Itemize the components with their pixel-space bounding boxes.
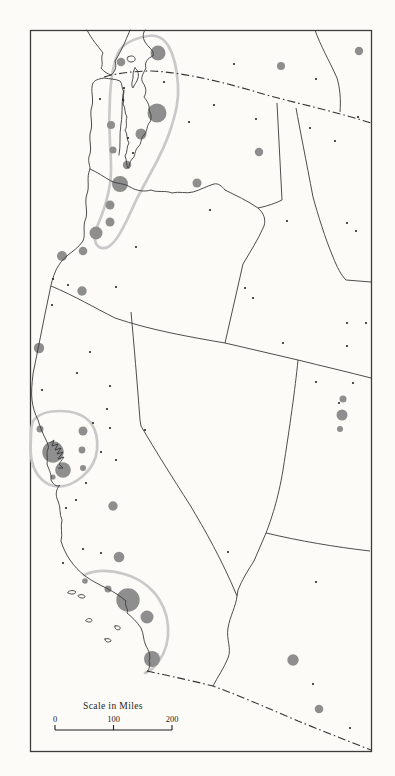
- town-dot: [115, 286, 117, 288]
- channel-islands: [68, 591, 120, 643]
- city-circle: [106, 218, 115, 227]
- town-dot: [41, 389, 43, 391]
- city-circle: [141, 611, 154, 624]
- snake-river-oregon-idaho-border: [225, 190, 265, 343]
- city-circle: [79, 447, 86, 454]
- city-circle: [193, 179, 202, 188]
- city-circle: [355, 47, 363, 55]
- san-juan-island: [127, 56, 135, 62]
- town-dot: [89, 351, 91, 353]
- town-dots-layer: [41, 63, 367, 729]
- city-circle: [277, 62, 285, 70]
- town-dot: [338, 402, 340, 404]
- town-dot: [346, 222, 348, 224]
- scale-tick-0: 0: [53, 714, 57, 724]
- corridor-outlines: [30, 35, 178, 673]
- city-circle: [80, 465, 86, 471]
- town-dot: [349, 727, 351, 729]
- town-dot: [115, 459, 117, 461]
- map-page: Scale in Miles 0 100 200: [0, 0, 395, 776]
- town-dot: [188, 121, 190, 123]
- town-dot: [99, 98, 101, 100]
- town-dot: [92, 422, 94, 424]
- town-dot: [76, 372, 78, 374]
- town-dot: [51, 304, 53, 306]
- town-dot: [357, 116, 359, 118]
- scale-tick-100: 100: [107, 714, 120, 724]
- town-dot: [75, 499, 77, 501]
- scale-bar: [55, 725, 172, 730]
- scale-title: Scale in Miles: [83, 701, 143, 711]
- town-dot: [82, 548, 84, 550]
- city-circle: [79, 247, 88, 256]
- city-circle: [42, 441, 63, 462]
- city-circles-layer: [34, 46, 363, 714]
- town-dot: [65, 507, 67, 509]
- town-dot: [286, 220, 288, 222]
- town-dot: [312, 683, 314, 685]
- city-circle: [337, 410, 348, 421]
- pacific-northwest-corridor-outline: [95, 35, 178, 248]
- town-dot: [85, 482, 87, 484]
- city-circle: [90, 227, 103, 240]
- town-dot: [144, 429, 146, 431]
- town-dot: [109, 385, 111, 387]
- scale-tick-200: 200: [166, 714, 179, 724]
- city-circle: [107, 121, 115, 129]
- town-dot: [100, 552, 102, 554]
- map-frame: [31, 31, 372, 752]
- town-dot: [109, 427, 111, 429]
- state-borders: [51, 30, 371, 686]
- town-dot: [309, 127, 311, 129]
- town-dot: [315, 381, 317, 383]
- town-dot: [334, 140, 336, 142]
- city-circle: [287, 654, 298, 665]
- town-dot: [346, 345, 348, 347]
- city-circle: [117, 58, 126, 67]
- city-circle: [55, 462, 71, 478]
- town-dot: [163, 81, 165, 83]
- city-circle: [79, 427, 88, 436]
- town-dot: [52, 278, 54, 280]
- town-dot: [355, 230, 357, 232]
- city-circle: [57, 251, 67, 261]
- town-dot: [315, 78, 317, 80]
- town-dot: [255, 118, 257, 120]
- town-dot: [282, 342, 284, 344]
- mexico-border: [147, 671, 371, 750]
- city-circle: [110, 147, 117, 154]
- city-circle: [108, 501, 117, 510]
- town-dot: [252, 297, 254, 299]
- town-dot: [135, 246, 137, 248]
- colorado-river-border: [213, 533, 266, 686]
- town-dot: [346, 322, 348, 324]
- town-dot: [365, 322, 367, 324]
- town-dot: [233, 63, 235, 65]
- continental-divide-bc: [315, 30, 340, 112]
- city-circle: [255, 148, 263, 156]
- city-circle: [114, 552, 125, 563]
- utah-arizona-border: [266, 533, 370, 551]
- city-circle: [77, 286, 86, 295]
- city-circle: [112, 176, 128, 192]
- town-dot: [67, 284, 69, 286]
- town-dot: [244, 287, 246, 289]
- town-dot: [123, 87, 125, 89]
- scale-legend: Scale in Miles 0 100 200: [53, 701, 179, 730]
- town-dot: [352, 382, 354, 384]
- snake-river-fork: [258, 200, 282, 208]
- town-dot: [213, 104, 215, 106]
- town-dot: [315, 581, 317, 583]
- city-circle: [340, 396, 347, 403]
- town-dot: [227, 551, 229, 553]
- city-circle: [106, 201, 115, 210]
- pacific-coastline: [32, 30, 154, 672]
- idaho-montana-border: [296, 108, 371, 282]
- map-canvas: Scale in Miles 0 100 200: [0, 0, 395, 776]
- international-borders: [104, 71, 371, 750]
- washington-idaho-border: [277, 103, 282, 200]
- city-circle: [116, 588, 139, 611]
- town-dot: [100, 451, 102, 453]
- town-dot: [62, 562, 64, 564]
- vancouver-island-coast: [87, 30, 130, 75]
